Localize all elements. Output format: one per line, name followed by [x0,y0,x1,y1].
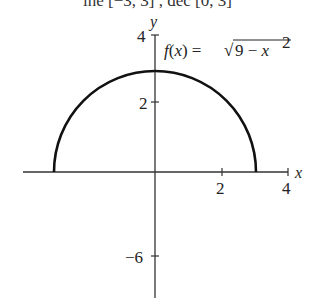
function-label-radicand: 9 − x [235,41,270,60]
y-tick-label-neg6: −6 [125,248,143,267]
function-label: f(x) = [164,41,201,60]
function-label-radical: √ [224,41,234,60]
function-label-exponent: 2 [282,33,291,52]
y-tick-label-2: 2 [139,94,148,113]
function-plot: 2 4 4 2 −6 x y f(x) = √ 9 − x 2 [0,0,315,304]
x-axis-label: x [294,164,302,181]
y-tick-label-4: 4 [137,27,146,46]
y-axis-label: y [148,13,158,31]
x-tick-label-4: 4 [282,179,291,198]
x-tick-label-2: 2 [216,179,225,198]
